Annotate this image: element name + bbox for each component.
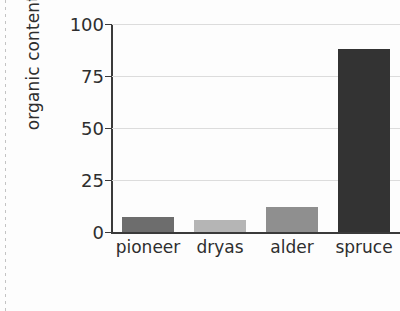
page-edge-dashed-line xyxy=(5,0,6,311)
plot-area xyxy=(112,24,400,232)
y-axis-tick-labels: 0255075100 xyxy=(52,0,104,311)
bar-pioneer xyxy=(122,217,174,232)
bar-chart-figure: organic content (mg/g) 0255075100 pionee… xyxy=(0,0,400,311)
x-axis-tick-label-dryas: dryas xyxy=(196,237,243,257)
bar-spruce xyxy=(338,49,390,232)
x-axis-tick-label-pioneer: pioneer xyxy=(116,237,181,257)
y-axis-tick-label: 50 xyxy=(81,118,104,139)
x-axis-tick-label-alder: alder xyxy=(270,237,313,257)
y-axis-tick-label: 0 xyxy=(93,222,104,243)
bar-alder xyxy=(266,207,318,232)
x-axis-tick-label-spruce: spruce xyxy=(335,237,392,257)
x-axis-tick-labels: pioneerdryasalderspruce xyxy=(112,237,400,267)
y-axis-tick-label: 100 xyxy=(70,14,104,35)
y-axis-label: organic content (mg/g) xyxy=(23,0,49,139)
y-axis-tick-label: 75 xyxy=(81,66,104,87)
y-axis-tick-mark xyxy=(105,24,112,25)
x-axis-line xyxy=(111,232,400,234)
y-axis-tick-mark xyxy=(105,232,112,233)
y-axis-tick-mark xyxy=(105,180,112,181)
gridline xyxy=(112,24,400,25)
bar-dryas xyxy=(194,220,246,232)
y-axis-tick-mark xyxy=(105,128,112,129)
y-axis-tick-mark xyxy=(105,76,112,77)
y-axis-tick-label: 25 xyxy=(81,170,104,191)
